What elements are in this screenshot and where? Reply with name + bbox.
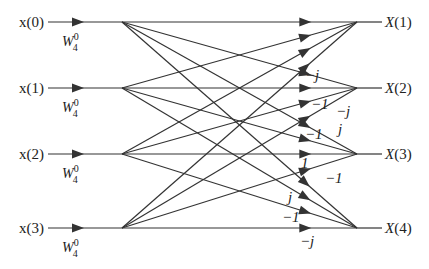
arrow-icon: [298, 206, 312, 218]
arrow-icon: [298, 190, 313, 204]
arrow-icon: [299, 84, 311, 93]
edge-weight-label: −1: [311, 96, 329, 112]
arrow-icon: [72, 224, 84, 233]
butterfly-edges: [122, 18, 357, 233]
output-label: X(2): [384, 80, 412, 97]
edge-weight-labels: −j−1−jj−11−1j−1−j: [282, 67, 350, 249]
arrow-icon: [72, 84, 84, 93]
arrow-icon: [298, 44, 313, 58]
input-label: x(1): [19, 80, 44, 97]
edge-weight-label: −1: [325, 170, 343, 186]
edge-weight-label: −1: [305, 126, 323, 142]
edge-weight-label: −j: [300, 233, 314, 249]
output-label: X(4): [384, 220, 412, 237]
edge-weight-label: j: [336, 121, 342, 137]
twiddle-factor-label: W04: [62, 163, 79, 185]
output-branches: X(1)X(2)X(3)X(4): [357, 14, 412, 237]
twiddle-factor-label: W04: [62, 31, 79, 53]
input-label: x(3): [19, 220, 44, 237]
arrow-icon: [72, 18, 84, 27]
twiddle-factor-label: W04: [62, 97, 79, 119]
output-label: X(3): [384, 146, 412, 163]
input-label: x(2): [19, 146, 44, 163]
input-branches: x(0)W04x(1)W04x(2)W04x(3)W04: [19, 14, 122, 259]
twiddle-factor-label: W04: [62, 237, 79, 259]
flow-graph-canvas: x(0)W04x(1)W04x(2)W04x(3)W04 X(1)X(2)X(3…: [0, 0, 429, 269]
output-label: X(1): [384, 14, 412, 31]
arrow-icon: [299, 18, 311, 27]
dft-flow-graph: x(0)W04x(1)W04x(2)W04x(3)W04 X(1)X(2)X(3…: [0, 0, 429, 269]
edge-weight-label: j: [286, 189, 292, 205]
edge-weight-label: −j: [305, 67, 319, 83]
input-label: x(0): [19, 14, 44, 31]
edge-weight-label: −j: [336, 103, 350, 119]
arrow-icon: [299, 224, 311, 233]
edge-weight-label: 1: [301, 155, 309, 171]
arrow-icon: [298, 31, 312, 43]
edge-weight-label: −1: [282, 209, 300, 225]
arrow-icon: [72, 150, 84, 159]
